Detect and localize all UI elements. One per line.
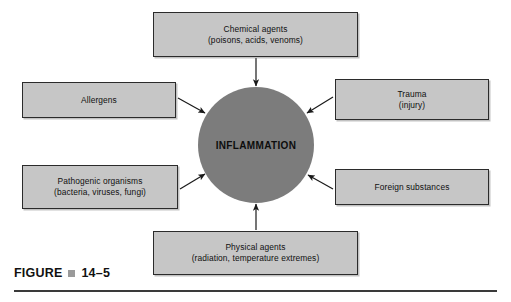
center-node-inflammation[interactable]: INFLAMMATION (198, 87, 314, 203)
node-trauma-line2: (injury) (399, 100, 425, 111)
square-bullet-icon (68, 270, 75, 277)
arrow-trauma-to-center (307, 97, 333, 113)
node-chemical-agents-line2: (poisons, acids, venoms) (208, 35, 303, 46)
node-allergens[interactable]: Allergens (22, 82, 176, 118)
figure-container: Chemical agents (poisons, acids, venoms)… (0, 0, 511, 302)
node-chemical-agents[interactable]: Chemical agents (poisons, acids, venoms) (153, 12, 358, 57)
node-physical-agents-line1: Physical agents (225, 242, 285, 253)
node-pathogenic-organisms-line2: (bacteria, viruses, fungi) (54, 187, 146, 198)
arrow-foreign-substances-to-center (308, 175, 333, 189)
node-pathogenic-organisms-line1: Pathogenic organisms (58, 176, 143, 187)
center-node-label: INFLAMMATION (216, 140, 297, 151)
caption-divider (14, 290, 497, 292)
node-chemical-agents-line1: Chemical agents (224, 24, 288, 35)
figure-caption-label: FIGURE (14, 266, 62, 280)
figure-caption-number: 14–5 (81, 266, 110, 280)
arrow-allergens-to-center (178, 98, 205, 113)
node-pathogenic-organisms[interactable]: Pathogenic organisms (bacteria, viruses,… (22, 165, 178, 209)
node-physical-agents[interactable]: Physical agents (radiation, temperature … (153, 231, 358, 275)
node-trauma[interactable]: Trauma (injury) (335, 79, 489, 120)
arrow-pathogenic-organisms-to-center (180, 174, 205, 189)
node-trauma-line1: Trauma (397, 89, 426, 100)
node-foreign-substances-line1: Foreign substances (375, 182, 450, 193)
node-allergens-line1: Allergens (81, 95, 117, 106)
figure-caption: FIGURE 14–5 (14, 266, 110, 280)
node-foreign-substances[interactable]: Foreign substances (335, 169, 489, 205)
diagram-canvas: Chemical agents (poisons, acids, venoms)… (0, 0, 511, 262)
node-physical-agents-line2: (radiation, temperature extremes) (192, 253, 320, 264)
